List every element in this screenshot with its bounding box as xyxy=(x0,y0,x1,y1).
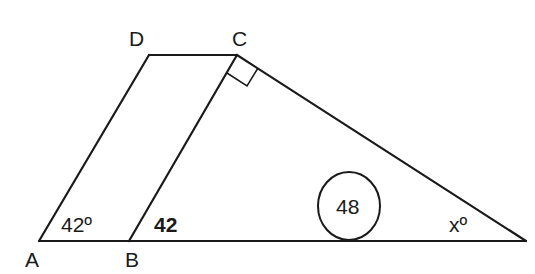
label-point-c: C xyxy=(232,27,247,50)
value-42-label: 42 xyxy=(154,213,177,236)
label-point-d: D xyxy=(129,27,144,50)
circled-value-label: 48 xyxy=(336,195,359,218)
segment-a-d xyxy=(39,55,149,241)
segment-c-e xyxy=(237,55,526,241)
right-angle-marker xyxy=(227,68,258,86)
angle-a-label: 42º xyxy=(61,213,92,236)
label-point-b: B xyxy=(125,248,139,271)
angle-x-label: xº xyxy=(449,213,468,236)
segment-b-c xyxy=(129,55,237,241)
label-point-a: A xyxy=(25,248,39,271)
geometry-diagram: D C A B 42º 42 48 xº xyxy=(0,0,535,274)
